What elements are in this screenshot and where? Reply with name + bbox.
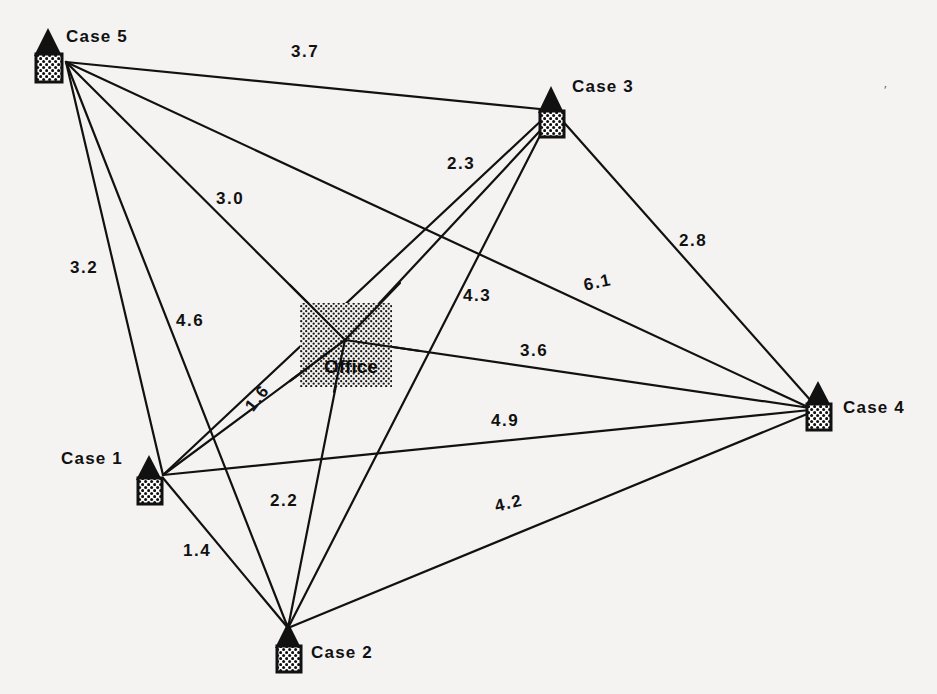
node-label-case5: Case 5 (66, 28, 128, 45)
house-icon-case2 (275, 622, 301, 672)
edge-case3-case4 (560, 118, 812, 402)
node-label-case3: Case 3 (572, 78, 634, 95)
edge-case2-case4 (288, 412, 812, 628)
node-label-case1: Case 1 (61, 450, 123, 467)
edge-label-office-case2: 2.2 (270, 492, 298, 509)
network-diagram: Case 5 Case 3 Case 4 Case 1 Case 2 Offic… (0, 0, 937, 694)
edge-label-case1-case4: 4.9 (491, 412, 519, 429)
house-icon-case1 (136, 455, 162, 504)
edge-lines (66, 62, 812, 628)
house-icon-case5 (34, 28, 62, 82)
edge-label-case5-case2: 4.6 (176, 312, 204, 329)
edge-label-case3-case2: 2.3 (447, 155, 475, 172)
edge-label-case3-case4: 2.8 (679, 232, 707, 249)
node-label-case2: Case 2 (311, 644, 373, 661)
edge-label-case1-case2: 1.4 (183, 542, 211, 559)
network-edges-layer (0, 0, 937, 694)
scan-artifact-mark: ′ (884, 82, 887, 98)
edge-case5-case3 (66, 62, 550, 110)
edge-label-case5-case4-via-office: 3.0 (216, 190, 244, 207)
edge-label-case3-case1: 4.3 (463, 287, 491, 304)
house-icon-case4 (805, 381, 831, 430)
node-label-case4: Case 4 (843, 399, 905, 416)
edge-label-case5-case1: 3.2 (70, 259, 98, 276)
edge-label-office-case4: 3.6 (520, 342, 548, 359)
node-label-office: Office (324, 357, 378, 376)
house-icon-case3 (538, 86, 564, 137)
edge-case1-case4 (163, 410, 810, 475)
edge-case5-case2 (66, 62, 288, 628)
edge-label-case5-case3: 3.7 (291, 43, 319, 60)
